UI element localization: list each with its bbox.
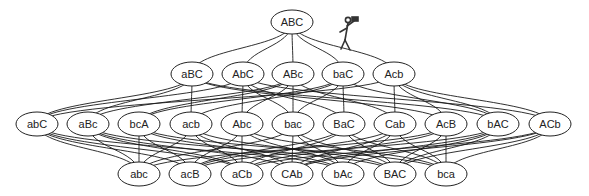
node-ABc: ABc xyxy=(272,62,314,86)
node-label: acB xyxy=(181,168,200,180)
node-label: CAb xyxy=(281,168,302,180)
node-label: BAC xyxy=(384,168,407,180)
edge-Acb-ACb xyxy=(394,74,550,124)
node-label: Acb xyxy=(385,68,404,80)
node-bca: bca xyxy=(425,162,467,186)
node-baC: baC xyxy=(322,62,364,86)
edges-layer xyxy=(37,22,550,174)
node-Acb: Acb xyxy=(373,62,415,86)
node-label: acb xyxy=(182,118,200,130)
edge-aBC-abC xyxy=(37,74,192,124)
node-label: baC xyxy=(333,68,353,80)
node-label: Abc xyxy=(233,118,252,130)
node-label: bAC xyxy=(487,118,508,130)
diagram-svg: ABCaBCAbCABcbaCAcbabCaBcbcAacbAbcbacBaCC… xyxy=(0,0,589,196)
node-AbC: AbC xyxy=(222,62,264,86)
nodes-layer: ABCaBCAbCABcbaCAcbabCaBcbcAacbAbcbacBaCC… xyxy=(16,10,571,186)
node-label: bac xyxy=(284,118,302,130)
node-label: Cab xyxy=(385,118,405,130)
node-label: bca xyxy=(437,168,456,180)
node-abC: abC xyxy=(16,112,58,136)
node-bAc: bAc xyxy=(322,162,364,186)
node-aBC: aBC xyxy=(171,62,213,86)
node-label: ABC xyxy=(281,16,304,28)
node-bac: bac xyxy=(272,112,314,136)
node-BAC: BAC xyxy=(374,162,416,186)
node-label: abC xyxy=(27,118,47,130)
node-AcB: AcB xyxy=(425,112,467,136)
node-label: AcB xyxy=(436,118,456,130)
node-ABC: ABC xyxy=(271,10,313,34)
edge-bac-abc xyxy=(139,124,293,174)
node-Cab: Cab xyxy=(374,112,416,136)
node-label: AbC xyxy=(232,68,253,80)
node-label: ABc xyxy=(283,68,304,80)
node-label: BaC xyxy=(333,118,354,130)
node-acb: acb xyxy=(170,112,212,136)
node-Abc: Abc xyxy=(221,112,263,136)
node-label: aCb xyxy=(232,168,252,180)
node-label: bcA xyxy=(130,118,150,130)
edge-BaC-acB xyxy=(190,124,344,174)
node-label: ACb xyxy=(539,118,560,130)
node-CAb: CAb xyxy=(271,162,313,186)
node-ACb: ACb xyxy=(529,112,571,136)
node-aCb: aCb xyxy=(221,162,263,186)
node-label: aBc xyxy=(79,118,98,130)
lattice-diagram: ABCaBCAbCABcbaCAcbabCaBcbcAacbAbcbacBaCC… xyxy=(0,0,589,196)
node-BaC: BaC xyxy=(323,112,365,136)
node-aBc: aBc xyxy=(67,112,109,136)
node-acB: acB xyxy=(169,162,211,186)
node-abc: abc xyxy=(118,162,160,186)
node-label: aBC xyxy=(181,68,202,80)
node-bcA: bcA xyxy=(118,112,160,136)
node-label: bAc xyxy=(334,168,353,180)
stick-figure-icon xyxy=(340,17,358,50)
node-bAC: bAC xyxy=(477,112,519,136)
node-label: abc xyxy=(130,168,148,180)
